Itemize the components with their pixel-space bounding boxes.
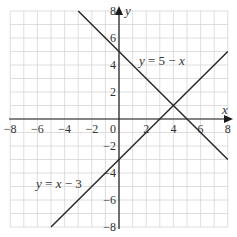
x-tick-label: 4 [170,122,176,136]
line-y-equals-x-minus-3 [51,52,228,228]
x-tick-label: −6 [31,122,44,136]
x-tick-label: 6 [198,122,204,136]
x-tick-label: 2 [143,122,149,136]
y-tick-label: −8 [103,220,116,234]
x-tick-label: −8 [4,122,17,136]
y-tick-label: 4 [110,58,116,72]
x-tick-label: −2 [85,122,98,136]
y-tick-label: 8 [110,4,116,18]
graph: −8−6−4−202468 8642−2−4−6−8 x y y = 5 − x… [0,0,237,237]
y-tick-label: −6 [103,193,116,207]
line-y-equals-5-minus-x [78,11,228,160]
y-tick-label: 2 [110,85,116,99]
y-tick-label: 6 [110,31,116,45]
equation-label-2: y = x − 3 [34,176,82,191]
x-tick-label: 8 [225,122,231,136]
equation-label-1: y = 5 − x [137,53,185,68]
y-tick-label: −4 [103,166,116,180]
x-tick-label: 0 [110,122,116,136]
y-axis-arrow-icon [115,6,123,15]
y-axis-label: y [123,3,131,18]
x-axis-label: x [221,102,228,117]
x-tick-labels: −8−6−4−202468 [4,122,231,136]
x-tick-label: −4 [58,122,71,136]
y-tick-label: −2 [103,139,116,153]
